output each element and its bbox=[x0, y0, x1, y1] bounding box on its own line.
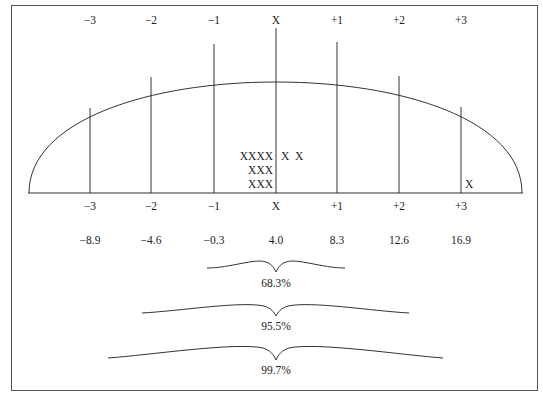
tally-far-right: X bbox=[465, 178, 474, 190]
tally-row2: XXX bbox=[248, 164, 274, 176]
bottom-sd-labels: −3 −2 −1 X +1 +2 +3 bbox=[84, 200, 467, 212]
top-label-plus1: +1 bbox=[331, 14, 343, 26]
brace-label-68: 68.3% bbox=[261, 277, 291, 289]
value-mean: 4.0 bbox=[269, 234, 284, 246]
tally-row1-left: XXXX bbox=[240, 150, 274, 162]
bottom-label-minus2: −2 bbox=[145, 200, 157, 212]
tally-row3: XXX bbox=[248, 178, 274, 190]
top-label-mean: X bbox=[272, 14, 281, 26]
value-minus2: −4.6 bbox=[141, 234, 162, 246]
brace-1sd bbox=[207, 261, 345, 272]
top-label-plus2: +2 bbox=[393, 14, 405, 26]
value-plus3: 16.9 bbox=[451, 234, 471, 246]
normal-curve-diagram: −3 −2 −1 X +1 +2 +3 XXXX X X XXX XXX X −… bbox=[0, 0, 543, 398]
bottom-label-plus1: +1 bbox=[331, 200, 343, 212]
value-plus2: 12.6 bbox=[389, 234, 409, 246]
value-minus1: −0.3 bbox=[204, 234, 225, 246]
bottom-label-minus3: −3 bbox=[84, 200, 96, 212]
braces bbox=[108, 261, 443, 360]
bottom-label-minus1: −1 bbox=[208, 200, 220, 212]
top-label-minus2: −2 bbox=[145, 14, 157, 26]
top-label-plus3: +3 bbox=[455, 14, 467, 26]
sd-lines bbox=[90, 28, 461, 193]
value-labels: −8.9 −4.6 −0.3 4.0 8.3 12.6 16.9 bbox=[80, 234, 472, 246]
brace-label-99: 99.7% bbox=[261, 364, 291, 376]
bottom-label-mean: X bbox=[272, 200, 281, 212]
value-plus1: 8.3 bbox=[330, 234, 345, 246]
bottom-label-plus2: +2 bbox=[393, 200, 405, 212]
top-sd-labels: −3 −2 −1 X +1 +2 +3 bbox=[84, 14, 467, 26]
brace-label-95: 95.5% bbox=[261, 320, 291, 332]
brace-labels: 68.3% 95.5% 99.7% bbox=[261, 277, 291, 376]
brace-3sd bbox=[108, 346, 443, 360]
value-minus3: −8.9 bbox=[80, 234, 101, 246]
brace-2sd bbox=[142, 305, 409, 316]
top-label-minus1: −1 bbox=[208, 14, 220, 26]
top-label-minus3: −3 bbox=[84, 14, 96, 26]
tally-row1-right: X X bbox=[281, 150, 304, 162]
data-tally: XXXX X X XXX XXX X bbox=[240, 150, 474, 190]
bottom-label-plus3: +3 bbox=[455, 200, 467, 212]
